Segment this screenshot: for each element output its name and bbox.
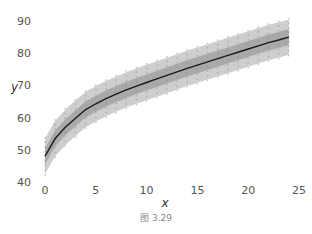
sample-point	[268, 47, 269, 48]
sample-point	[54, 129, 55, 130]
sample-point	[95, 122, 96, 123]
sample-point	[95, 117, 96, 118]
sample-point	[227, 59, 228, 60]
sample-point	[288, 55, 289, 56]
sample-point	[248, 58, 249, 59]
sample-point	[207, 52, 208, 53]
sample-point	[207, 47, 208, 48]
sample-point	[85, 100, 86, 101]
sample-point	[268, 28, 269, 29]
sample-point	[258, 26, 259, 27]
sample-point	[187, 49, 188, 50]
sample-point	[136, 104, 137, 105]
sample-point	[75, 136, 76, 137]
sample-point	[75, 113, 76, 114]
sample-point	[156, 83, 157, 84]
sample-point	[248, 39, 249, 40]
sample-point	[85, 90, 86, 91]
sample-point	[85, 123, 86, 124]
sample-point	[126, 94, 127, 95]
sample-point	[105, 103, 106, 104]
sample-point	[136, 99, 137, 100]
sample-point	[85, 95, 86, 96]
sample-point	[268, 23, 269, 24]
y-tick-label: 50	[17, 144, 31, 157]
sample-point	[44, 165, 45, 166]
sample-point	[237, 33, 238, 34]
sample-point	[105, 116, 106, 117]
sample-point	[288, 18, 289, 19]
sample-point	[65, 145, 66, 146]
sample-point	[166, 93, 167, 94]
sample-point	[95, 98, 96, 99]
sample-point	[187, 77, 188, 78]
y-tick-label: 70	[17, 79, 31, 92]
sample-point	[187, 63, 188, 64]
sample-point	[278, 58, 279, 59]
sample-point	[207, 57, 208, 58]
sample-point	[136, 81, 137, 82]
sample-point	[278, 53, 279, 54]
sample-point	[278, 35, 279, 36]
sample-point	[65, 117, 66, 118]
sample-point	[197, 46, 198, 47]
sample-point	[258, 54, 259, 55]
sample-point	[258, 31, 259, 32]
sample-point	[217, 77, 218, 78]
sample-point	[136, 76, 137, 77]
x-axis-ticks: 0510152025	[42, 184, 307, 197]
sample-point	[176, 76, 177, 77]
sample-point	[156, 69, 157, 70]
sample-point	[156, 88, 157, 89]
sample-point	[146, 96, 147, 97]
sample-point	[95, 108, 96, 109]
sample-point	[65, 122, 66, 123]
sample-point	[166, 70, 167, 71]
sample-point	[156, 74, 157, 75]
sample-point	[44, 137, 45, 138]
sample-point	[268, 51, 269, 52]
sample-point	[126, 85, 127, 86]
sample-point	[105, 112, 106, 113]
sample-point	[268, 33, 269, 34]
sample-point	[146, 86, 147, 87]
sample-point	[258, 40, 259, 41]
sample-point	[146, 73, 147, 74]
sample-point	[217, 63, 218, 64]
sample-point	[166, 56, 167, 57]
chart-canvas: 405060708090 0510152025 y x	[0, 0, 312, 234]
sample-point	[197, 60, 198, 61]
sample-point	[207, 70, 208, 71]
sample-point	[85, 113, 86, 114]
sample-point	[156, 97, 157, 98]
sample-point	[105, 107, 106, 108]
sample-point	[85, 127, 86, 128]
sample-point	[217, 67, 218, 68]
y-tick-label: 80	[17, 47, 31, 60]
bands-layer	[45, 19, 289, 174]
y-tick-label: 60	[17, 112, 31, 125]
sample-point	[105, 89, 106, 90]
sample-point	[44, 142, 45, 143]
sample-point	[166, 61, 167, 62]
sample-point	[115, 103, 116, 104]
sample-point	[176, 85, 177, 86]
sample-point	[44, 151, 45, 152]
sample-point	[197, 69, 198, 70]
sample-point	[146, 68, 147, 69]
sample-point	[278, 21, 279, 22]
sample-point	[258, 36, 259, 37]
sample-point	[237, 61, 238, 62]
x-axis-label: x	[160, 196, 169, 210]
sample-point	[187, 72, 188, 73]
sample-point	[187, 54, 188, 55]
sample-point	[288, 46, 289, 47]
sample-point	[75, 108, 76, 109]
sample-point	[237, 56, 238, 57]
sample-point	[248, 53, 249, 54]
sample-point	[44, 160, 45, 161]
sample-point	[288, 41, 289, 42]
sample-point	[95, 84, 96, 85]
figure-caption: 图 3.29	[0, 211, 312, 224]
sample-point	[156, 60, 157, 61]
